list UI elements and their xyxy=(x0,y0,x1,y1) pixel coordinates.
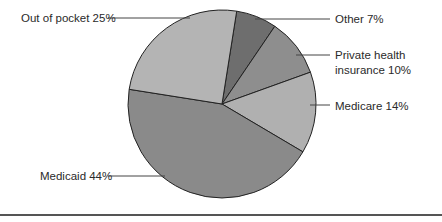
label-medicaid: Medicaid 44% xyxy=(40,170,112,182)
label-medicare: Medicare 14% xyxy=(335,100,409,112)
pie-chart: Out of pocket 25% Other 7% Private healt… xyxy=(0,0,442,222)
label-out-of-pocket: Out of pocket 25% xyxy=(21,12,116,24)
pie-slices xyxy=(128,10,316,198)
pie-slice-out-of-pocket xyxy=(129,10,237,104)
label-private-line2: insurance 10% xyxy=(335,64,411,76)
bottom-divider xyxy=(0,214,442,216)
label-other: Other 7% xyxy=(335,13,384,25)
label-private-line1: Private health xyxy=(335,49,405,61)
